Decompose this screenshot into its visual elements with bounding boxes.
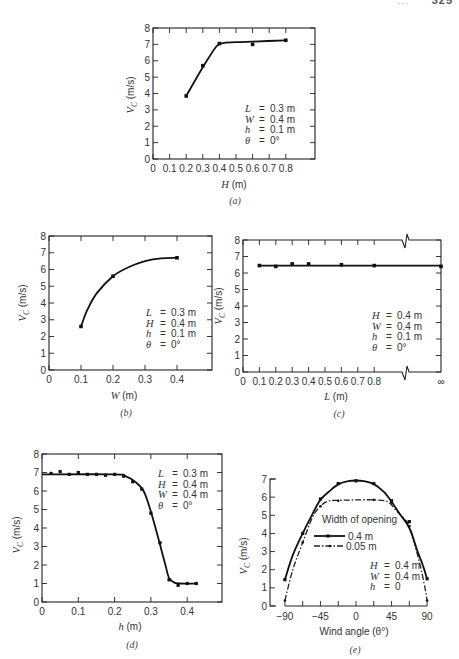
x-tick-label: 0.2 <box>106 374 120 385</box>
chart-d-vc-vs-h: 01234567800.10.20.30.4L=0.3 mH=0.4 mW=0.… <box>11 449 222 652</box>
data-point <box>301 541 304 544</box>
plot-frame <box>49 236 212 370</box>
data-point <box>218 42 222 46</box>
data-point <box>283 578 286 581</box>
data-point <box>186 582 189 585</box>
fit-curve <box>186 40 286 96</box>
data-point <box>201 64 205 68</box>
plot-frame-with-axis-break <box>243 234 441 380</box>
y-axis-label: VC (m/s) <box>213 288 227 325</box>
x-tick-label: 0.1 <box>252 376 266 387</box>
y-tick-label: 3 <box>33 541 39 552</box>
x-tick-label: 0.2 <box>179 163 193 174</box>
annotation-line: θ=0° <box>146 339 181 350</box>
y-tick-label: 1 <box>144 137 150 148</box>
data-point <box>104 474 107 477</box>
x-tick-label: 0.7 <box>351 376 365 387</box>
data-point <box>337 499 340 502</box>
x-tick-label: 0 <box>46 374 52 385</box>
x-axis-label: Wind angle (θ°) <box>319 626 388 637</box>
y-tick-label: 3 <box>40 314 46 325</box>
x-tick-label: 0.7 <box>262 163 276 174</box>
y-tick-label: 4 <box>40 298 46 309</box>
data-point <box>149 512 152 515</box>
data-point <box>426 599 429 602</box>
data-point <box>337 482 340 485</box>
data-point <box>86 473 89 476</box>
y-tick-label: 6 <box>40 264 46 275</box>
annotation-line: W=0.4 m <box>370 571 420 582</box>
data-point <box>307 262 311 266</box>
annotation-line: L=0.3 m <box>244 103 295 114</box>
legend: Width of opening0.4 m0.05 m <box>314 514 397 552</box>
data-point <box>79 325 83 329</box>
y-tick-label: 6 <box>261 492 267 503</box>
x-tick-label: 0.1 <box>163 163 177 174</box>
data-point <box>372 499 375 502</box>
data-point <box>301 532 304 535</box>
y-tick-label: 7 <box>261 474 267 485</box>
annotation-line: W=0.4 m <box>372 321 422 332</box>
annotation-line: H=0.4 m <box>371 310 422 321</box>
x-axis-label: H (m) <box>220 179 246 190</box>
caption: (a) <box>229 195 241 207</box>
data-point <box>175 256 179 260</box>
x-tick-label: 0.6 <box>334 376 348 387</box>
y-tick-label: 8 <box>234 235 240 246</box>
data-point <box>354 479 357 482</box>
data-point <box>439 265 443 269</box>
y-axis-label: VC (m/s) <box>17 285 31 322</box>
annotation-line: H=0.4 m <box>145 318 196 329</box>
data-point <box>290 262 294 266</box>
y-tick-label: 5 <box>33 504 39 515</box>
y-tick-label: 0 <box>261 601 267 612</box>
x-tick-label: 0 <box>353 611 359 622</box>
data-point <box>49 472 52 475</box>
data-point <box>390 501 393 504</box>
y-tick-label: 2 <box>144 121 150 132</box>
x-tick-label: 0.4 <box>212 163 226 174</box>
annotation-line: W=0.4 m <box>158 489 208 500</box>
x-tick-label: 0.6 <box>246 163 260 174</box>
data-point <box>113 473 116 476</box>
data-point <box>319 497 322 500</box>
x-tick-label: 45 <box>386 611 398 622</box>
x-tick-label: 0.2 <box>269 376 283 387</box>
caption: (e) <box>349 644 361 656</box>
data-point <box>167 578 170 581</box>
figure-canvas: 01234567800.10.20.30.40.50.60.70.8L=0.3 … <box>0 0 459 659</box>
data-point <box>340 263 344 267</box>
x-tick-label: 0.1 <box>74 374 88 385</box>
data-point <box>158 541 161 544</box>
y-tick-label: 5 <box>261 510 267 521</box>
y-tick-label: 8 <box>40 231 46 242</box>
legend-label-0.05m: 0.05 m <box>346 541 377 552</box>
y-tick-label: 4 <box>261 528 267 539</box>
annotation-line: W=0.4 m <box>245 114 295 125</box>
data-point <box>372 482 375 485</box>
data-point <box>122 475 125 478</box>
data-point <box>184 94 188 98</box>
y-tick-label: 5 <box>40 281 46 292</box>
y-tick-label: 7 <box>144 39 150 50</box>
x-tick-label: 0.4 <box>302 376 316 387</box>
y-tick-label: 3 <box>234 317 240 328</box>
data-point <box>251 43 255 47</box>
y-tick-label: 4 <box>33 523 39 534</box>
x-axis-label: h (m) <box>118 621 141 632</box>
y-axis <box>270 479 276 606</box>
x-tick-label: 0 <box>240 376 246 387</box>
data-point <box>195 582 198 585</box>
y-tick-label: 1 <box>261 582 267 593</box>
data-point <box>258 264 262 268</box>
x-tick-label: 0.1 <box>71 606 85 617</box>
y-tick-label: 6 <box>33 486 39 497</box>
caption: (b) <box>120 407 132 419</box>
x-tick-label: 0 <box>39 606 45 617</box>
data-point <box>284 599 287 602</box>
annotation-line: h=0 <box>370 581 401 592</box>
x-tick-label-infinity: ∞ <box>437 376 444 387</box>
y-tick-label: 7 <box>40 247 46 258</box>
y-tick-label: 1 <box>33 578 39 589</box>
y-tick-label: 2 <box>234 334 240 345</box>
